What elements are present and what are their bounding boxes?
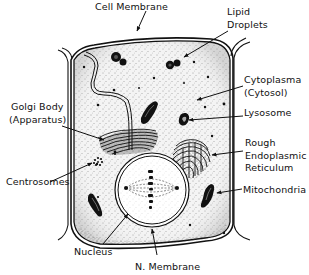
label-lysosome: Lysosome	[244, 107, 291, 120]
label-lipid-droplets: Lipid Droplets	[227, 6, 268, 31]
label-text: Droplets	[227, 19, 268, 32]
label-rough-er: Rough Endoplasmic Reticulum	[245, 137, 307, 175]
label-text: Cytoplasma	[244, 74, 301, 87]
label-text: N. Membrane	[135, 261, 200, 274]
label-mitochondria: Mitochondria	[243, 184, 306, 197]
label-text: Mitochondria	[243, 184, 306, 197]
label-text: Reticulum	[245, 162, 307, 175]
label-nucleus: Nucleus	[74, 246, 113, 259]
label-cell-membrane: Cell Membrane	[95, 1, 168, 14]
label-nuclear-membrane: N. Membrane	[135, 261, 200, 274]
label-text: Lipid	[227, 6, 268, 19]
label-text: Rough	[245, 137, 307, 150]
label-cytoplasma: Cytoplasma (Cytosol)	[244, 74, 301, 99]
label-text: Endoplasmic	[245, 150, 307, 163]
label-text: Lysosome	[244, 107, 291, 120]
label-text: (Cytosol)	[244, 87, 301, 100]
leader-cell-membrane	[137, 11, 146, 31]
label-text: (Apparatus)	[9, 114, 66, 127]
label-golgi-body: Golgi Body (Apparatus)	[9, 101, 66, 126]
label-text: Golgi Body	[9, 101, 66, 114]
label-text: Centrosomes	[6, 176, 70, 189]
label-text: Nucleus	[74, 246, 113, 259]
label-centrosomes: Centrosomes	[6, 176, 70, 189]
label-text: Cell Membrane	[95, 1, 168, 14]
